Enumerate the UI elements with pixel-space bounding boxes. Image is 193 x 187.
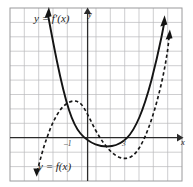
derivative-curve-label: y = f′(x)	[34, 13, 69, 24]
x-axis-label: x	[181, 138, 185, 147]
grid-lines	[10, 8, 182, 181]
dashed-curve-arrow-up	[166, 30, 173, 40]
solid-curve-arrow-right	[160, 15, 167, 26]
graph-canvas	[0, 0, 193, 187]
math-figure: y = f′(x) y = f(x) y x –1 3	[0, 0, 193, 187]
x-tick-label-neg-one: –1	[64, 140, 72, 148]
solid-parabola-path	[48, 16, 164, 146]
y-axis-label: y	[88, 10, 92, 19]
x-tick-label-three: 3	[122, 140, 126, 148]
function-curve-label: y = f(x)	[38, 161, 71, 172]
